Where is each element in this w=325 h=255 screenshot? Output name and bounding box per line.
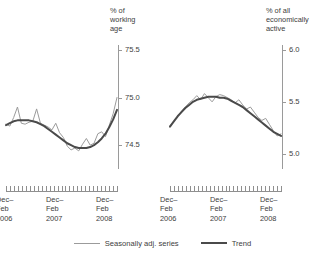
x-axis-tick [22,186,23,191]
x-axis-tick [261,186,262,191]
x-axis-tick [229,186,230,191]
x-axis-tick [38,186,39,191]
x-axis-tick-label: Dec– Feb 2007 [46,195,80,223]
x-axis-line-left [6,191,118,192]
y-axis-tick [282,102,286,103]
legend-item-label: Trend [232,239,252,248]
x-axis-tick [186,186,187,191]
x-axis-tick [42,186,43,191]
y-axis-spine-left [118,45,119,169]
x-axis-tick [277,186,278,191]
x-axis-tick [30,186,31,191]
x-axis-tick [218,186,219,191]
series-line [170,97,281,136]
x-axis-tick [194,186,195,191]
x-axis-tick [10,186,11,191]
x-axis-tick [109,186,110,191]
x-axis-tick [214,186,215,191]
x-axis-tick-label: Dec– Feb 2008 [96,195,130,223]
series-line [170,94,281,136]
x-axis-tick [58,186,59,191]
y-axis-title-right: % of all economically active [266,6,325,34]
line-swatch-icon [201,242,227,244]
x-axis-ticks-right [170,186,282,191]
x-axis-tick [233,186,234,191]
x-axis-tick [265,186,266,191]
x-axis-tick [182,186,183,191]
line-swatch-icon [74,243,100,244]
x-axis-tick [249,186,250,191]
x-axis-tick-label: Dec– Feb 2006 [0,195,30,223]
x-axis-ticks-left [6,186,118,191]
x-axis-tick [18,186,19,191]
x-axis-tick [117,186,118,191]
legend-item[interactable]: Trend [201,239,252,248]
x-axis-tick [54,186,55,191]
x-axis-tick-label: Dec– Feb 2008 [260,195,294,223]
x-axis-tick [14,186,15,191]
y-axis-tick-label: 75.0 [125,94,140,102]
x-axis-tick [245,186,246,191]
y-axis-tick-label: 5.0 [289,150,300,158]
x-axis-tick [105,186,106,191]
x-axis-tick [241,186,242,191]
x-axis-line-right [170,191,282,192]
x-axis-left: Dec– Feb 2006Dec– Feb 2007Dec– Feb 2008 [6,186,118,232]
x-axis-tick [210,186,211,191]
y-axis-spine-right [282,45,283,169]
y-axis-tick-label: 74.5 [125,141,140,149]
x-axis-tick [89,186,90,191]
x-axis-tick [237,186,238,191]
x-axis-tick [257,186,258,191]
legend-item[interactable]: Seasonally adj. series [74,239,179,248]
x-axis-tick [69,186,70,191]
chart-legend: Seasonally adj. seriesTrend [0,234,325,252]
x-axis-tick [273,186,274,191]
legend-item-label: Seasonally adj. series [105,239,179,248]
x-axis-tick [206,186,207,191]
x-axis-tick [281,186,282,191]
y-axis-tick-label: 5.5 [289,98,300,106]
x-axis-tick [26,186,27,191]
x-axis-tick [93,186,94,191]
chart-figure: 75.575.074.5 % of working age Dec– Feb 2… [0,0,325,255]
y-axis-tick [282,50,286,51]
x-axis-tick [73,186,74,191]
x-axis-tick [46,186,47,191]
x-axis-right: Dec– Feb 2006Dec– Feb 2007Dec– Feb 2008 [170,186,282,232]
x-axis-tick [226,186,227,191]
x-axis-tick-label: Dec– Feb 2006 [160,195,194,223]
y-axis-tick [118,50,122,51]
x-axis-tick [178,186,179,191]
x-axis-labels-right: Dec– Feb 2006Dec– Feb 2007Dec– Feb 2008 [160,195,292,229]
series-line [6,110,117,148]
y-axis-tick [118,145,122,146]
x-axis-tick [81,186,82,191]
series-line [6,97,117,150]
x-axis-tick [101,186,102,191]
x-axis-tick [85,186,86,191]
x-axis-tick-label: Dec– Feb 2007 [210,195,244,223]
x-axis-tick [97,186,98,191]
x-axis-tick [6,186,7,191]
x-axis-tick [170,186,171,191]
x-axis-tick [62,186,63,191]
x-axis-tick [269,186,270,191]
x-axis-tick [65,186,66,191]
y-axis-tick [282,154,286,155]
x-axis-tick [198,186,199,191]
x-axis-tick [34,186,35,191]
x-axis-tick [50,186,51,191]
x-axis-tick [190,186,191,191]
x-axis-tick [222,186,223,191]
x-axis-tick [202,186,203,191]
x-axis-tick [77,186,78,191]
y-axis-tick-label: 75.5 [125,46,140,54]
x-axis-tick [113,186,114,191]
y-axis-tick-label: 6.0 [289,46,300,54]
x-axis-labels-left: Dec– Feb 2006Dec– Feb 2007Dec– Feb 2008 [0,195,128,229]
y-axis-tick [118,98,122,99]
x-axis-tick [253,186,254,191]
x-axis-tick [174,186,175,191]
